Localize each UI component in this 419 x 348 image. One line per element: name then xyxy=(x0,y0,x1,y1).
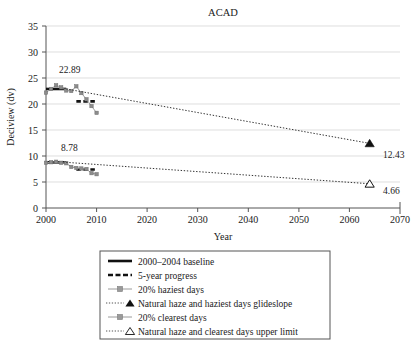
series-marker-6-3 xyxy=(59,161,62,164)
x-tick-label-2030: 2030 xyxy=(188,214,208,225)
annotation-upperlimit-endpoint: 4.66 xyxy=(383,186,400,196)
chart-legend: 2000–2004 baseline 5-year progress 20% h… xyxy=(100,251,330,339)
x-tick-label-2010: 2010 xyxy=(87,214,107,225)
y-tick-label-35: 35 xyxy=(28,21,38,32)
x-tick-label-2020: 2020 xyxy=(137,214,157,225)
x-axis-title: Year xyxy=(214,231,233,242)
series-marker-2-3 xyxy=(59,86,62,89)
series-marker-2-10 xyxy=(95,111,98,114)
chart-container: ACAD 35 30 25 xyxy=(0,0,419,348)
acad-deciview-chart: ACAD 35 30 25 xyxy=(0,0,419,348)
series-marker-6-2 xyxy=(54,160,57,163)
y-tick-label-30: 30 xyxy=(28,47,38,58)
series-marker-6-5 xyxy=(70,165,73,168)
series-marker-6-7 xyxy=(80,167,83,170)
chart-title: ACAD xyxy=(208,7,238,18)
legend-label-baseline: 2000–2004 baseline xyxy=(138,257,214,267)
y-axis-title: Deciview (dv) xyxy=(5,88,17,145)
series-marker-2-6 xyxy=(75,85,78,88)
legend-label-glideslope: Natural haze and haziest days glideslope xyxy=(138,299,292,309)
y-tick-label-20: 20 xyxy=(28,99,38,110)
y-tick-label-15: 15 xyxy=(28,125,38,136)
series-marker-6-6 xyxy=(75,166,78,169)
annotation-baseline-clearest: 8.78 xyxy=(61,143,78,153)
y-tick-label-10: 10 xyxy=(28,151,38,162)
series-marker-6-9 xyxy=(90,171,93,174)
annotation-baseline-haziest: 22.89 xyxy=(59,65,81,75)
y-tick-label-25: 25 xyxy=(28,73,38,84)
y-tick-label-0: 0 xyxy=(33,203,38,214)
legend-marker-square-2-icon xyxy=(118,315,123,320)
series-marker-2-8 xyxy=(85,98,88,101)
x-tick-label-2070: 2070 xyxy=(390,214,410,225)
series-marker-2-0 xyxy=(44,91,47,94)
x-tick-label-2050: 2050 xyxy=(289,214,309,225)
series-marker-6-8 xyxy=(85,167,88,170)
series-marker-6-1 xyxy=(49,161,52,164)
series-marker-6-10 xyxy=(95,173,98,176)
y-tick-label-5: 5 xyxy=(33,177,38,188)
series-marker-2-1 xyxy=(49,87,52,90)
series-marker-6-0 xyxy=(44,161,47,164)
x-tick-label-2040: 2040 xyxy=(238,214,258,225)
x-tick-label-2060: 2060 xyxy=(339,214,359,225)
legend-label-upperlimit: Natural haze and clearest days upper lim… xyxy=(138,327,298,337)
legend-label-progress: 5-year progress xyxy=(138,271,197,281)
legend-label-haziest: 20% haziest days xyxy=(138,285,204,295)
legend-label-clearest: 20% clearest days xyxy=(138,313,207,323)
series-marker-2-2 xyxy=(54,84,57,87)
annotation-glideslope-endpoint: 12.43 xyxy=(383,150,405,160)
legend-marker-square-icon xyxy=(118,287,123,292)
x-tick-label-2000: 2000 xyxy=(36,214,56,225)
series-marker-2-9 xyxy=(90,104,93,107)
